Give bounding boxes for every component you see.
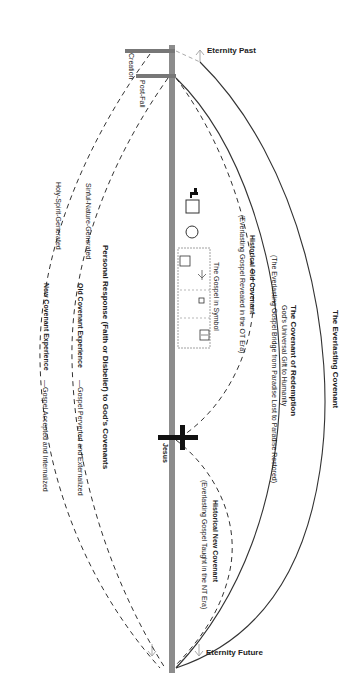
arrow-down-icon [195,644,203,656]
redemption-title: The Covenant of Redemption [289,305,298,416]
redemption-sub1: God's Universal Gift to Humanity [281,305,288,406]
old-experience-title: Old Covenant Experience [77,283,84,368]
gospel-symbol-title: The Gospel in Symbol [213,262,220,331]
new-experience-title: New Covenant Experience [43,283,50,371]
new-experience-generated: Holy-Spirit-Generated [55,182,62,250]
old-covenant-title: Historical Old Covenant [249,235,256,314]
new-experience-arc [40,54,160,668]
circle-icon [186,226,198,238]
personal-response-heading: Personal Response (Faith or Disbelief) t… [101,245,110,469]
covenant-diagram [0,0,356,681]
eternity-past-label: Eternity Past [207,46,256,55]
eternity-future-label: Eternity Future [206,648,263,657]
everlasting-covenant-label: The Everlasting Covenant [331,310,340,408]
new-covenant-sub: (Everlasting Gospel Taught in the NT Era… [201,480,208,609]
old-covenant-sub: (Everlasting Gospel Revealed in the OT E… [239,215,246,353]
new-experience-desc: —Gospel Accepted and Internalized [42,380,49,492]
redemption-sub2: (The Everlasting Gospel Bridge from Para… [271,255,278,483]
new-covenant-title: Historical New Covenant [212,500,219,582]
everlasting-covenant-arc [176,62,325,668]
old-experience-desc: —Gospel Perverted and Externalized [77,380,84,496]
jesus-label: Jesus [162,443,169,463]
timeline-bar [169,45,175,673]
lamb-icon [190,188,198,198]
old-experience-arc [72,78,168,668]
gospel-symbol-box [178,248,210,348]
post-fall-label: Post-Fall [139,80,146,108]
creation-label: Creation [128,53,135,79]
square-icon [186,200,199,213]
post-fall-tick [136,74,176,78]
old-experience-generated: Sinful-Nature-Generated [85,183,92,259]
arrow-down-icon-left [148,644,156,656]
